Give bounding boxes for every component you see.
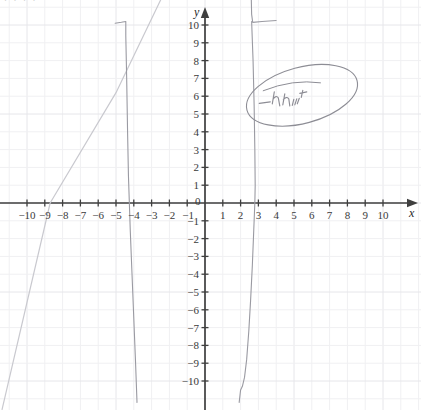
curve-straight-line xyxy=(2,0,162,409)
y-tick-label: −10 xyxy=(182,376,199,387)
y-axis-name: y xyxy=(194,6,199,18)
y-tick-label: 3 xyxy=(194,144,200,155)
x-tick-label: 10 xyxy=(378,210,389,221)
y-tick-label: −5 xyxy=(187,287,199,298)
x-tick-label: 5 xyxy=(291,210,297,221)
y-tick-label: 9 xyxy=(194,37,200,48)
y-tick-label: 6 xyxy=(194,91,200,102)
y-tick-label: 1 xyxy=(194,180,200,191)
y-tick-label: 2 xyxy=(194,162,200,173)
y-tick-label: 4 xyxy=(194,126,200,137)
curve-branch-right xyxy=(251,0,276,22)
x-tick-label: −2 xyxy=(164,210,176,221)
x-axis-name: x xyxy=(409,207,414,219)
y-tick-label: −8 xyxy=(187,340,199,351)
y-tick-label: −2 xyxy=(187,233,199,244)
y-tick-label: 8 xyxy=(194,55,200,66)
x-tick-label: −6 xyxy=(92,210,104,221)
coordinate-plane xyxy=(0,0,421,410)
x-tick-label: −8 xyxy=(57,210,69,221)
y-tick-label: −7 xyxy=(187,322,199,333)
y-tick-label: 10 xyxy=(188,20,199,31)
x-tick-label: −3 xyxy=(146,210,158,221)
y-tick-label: −4 xyxy=(187,269,199,280)
annotation-handwriting xyxy=(259,90,307,106)
x-tick-label: 7 xyxy=(327,210,333,221)
y-tick-label: −1 xyxy=(187,215,199,226)
x-tick-label: −10 xyxy=(18,210,35,221)
x-tick-label: 2 xyxy=(238,210,244,221)
y-tick-label: −6 xyxy=(187,304,199,315)
x-tick-label: −4 xyxy=(128,210,140,221)
y-tick-label: −3 xyxy=(187,251,199,262)
x-tick-label: −5 xyxy=(110,210,122,221)
y-axis-arrow xyxy=(201,7,209,18)
graph-screenshot: · · · · −10−9−8−7−6−5−4−3−2−112345678910… xyxy=(0,0,421,410)
y-tick-label: 7 xyxy=(194,73,200,84)
origin-label: 0 xyxy=(195,196,201,207)
x-tick-label: 3 xyxy=(256,210,262,221)
x-tick-label: 8 xyxy=(345,210,351,221)
data-series-layer xyxy=(2,0,276,409)
x-tick-label: 4 xyxy=(273,210,279,221)
y-tick-label: 5 xyxy=(194,109,200,120)
x-tick-label: 6 xyxy=(309,210,315,221)
x-tick-label: 9 xyxy=(362,210,368,221)
y-tick-label: −9 xyxy=(187,358,199,369)
x-tick-label: −9 xyxy=(39,210,51,221)
x-tick-label: −7 xyxy=(75,210,87,221)
x-tick-label: 1 xyxy=(220,210,226,221)
